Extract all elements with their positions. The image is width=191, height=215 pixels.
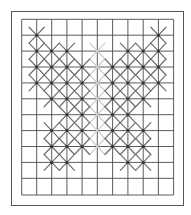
stitch-dot [142, 161, 145, 164]
stitch-dot [81, 113, 84, 116]
stitch-dot [126, 129, 129, 132]
stitch-dot [35, 81, 38, 84]
stitch-dot [142, 66, 145, 69]
stitch-dot [111, 113, 114, 116]
stitch-dot [126, 81, 129, 84]
stitch-dot [111, 145, 114, 148]
stitch-dot [142, 129, 145, 132]
stitch-dot [142, 145, 145, 148]
stitch-dot [35, 50, 38, 53]
stitch-dot [81, 145, 84, 148]
stitch-dot [50, 81, 53, 84]
stitch-dot [65, 81, 68, 84]
stitch-dot [65, 113, 68, 116]
stitch-dot [81, 66, 84, 69]
stitch-dot [65, 161, 68, 164]
stitch-dot [65, 66, 68, 69]
stitch-dot [126, 145, 129, 148]
stitch-dot [126, 97, 129, 100]
stitch-dot [126, 50, 129, 53]
stitch-dot [50, 145, 53, 148]
stitch-dot [142, 97, 145, 100]
stitch-dot [81, 81, 84, 84]
stitch-dot [111, 97, 114, 100]
stitch-dot [50, 50, 53, 53]
cross-stitch-diagram [0, 0, 191, 215]
stitch-dot [126, 113, 129, 116]
stitch-dot [35, 66, 38, 69]
stitch-dot [65, 97, 68, 100]
stitch-dot [65, 145, 68, 148]
stitch-dot [50, 129, 53, 132]
stitch-dot [50, 66, 53, 69]
stitch-dot [157, 81, 160, 84]
stitch-dot [157, 34, 160, 37]
stitch-dot [157, 66, 160, 69]
stitch-dot [157, 50, 160, 53]
stitch-dot [81, 129, 84, 132]
stitch-dot [142, 50, 145, 53]
stitch-dot [35, 34, 38, 37]
stitch-dot [126, 161, 129, 164]
stitch-dot [111, 66, 114, 69]
stitch-dot [111, 129, 114, 132]
stitch-dot [50, 97, 53, 100]
stitch-dot [65, 50, 68, 53]
stitch-dot [81, 97, 84, 100]
stitch-dot [65, 129, 68, 132]
stitch-dot [50, 161, 53, 164]
stitch-dot [142, 81, 145, 84]
stitch-dot [111, 81, 114, 84]
stitch-dot [126, 66, 129, 69]
